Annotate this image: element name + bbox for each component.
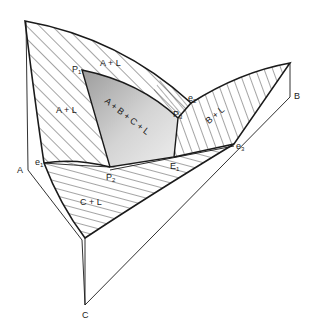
label-component-a: A — [17, 165, 23, 175]
label-e2: e2 — [188, 93, 197, 104]
label-c-plus-l: C + L — [80, 197, 102, 207]
label-e3: e3 — [236, 141, 245, 152]
label-component-c: C — [82, 310, 89, 320]
label-component-b: B — [294, 91, 300, 101]
b-plus-l-field — [174, 63, 290, 157]
ternary-phase-diagram: A + L A + L B + L C + L A + B + C + L P1… — [0, 0, 313, 336]
label-a-plus-l-upper: A + L — [100, 58, 121, 68]
label-a-plus-l-left: A + L — [56, 105, 77, 115]
